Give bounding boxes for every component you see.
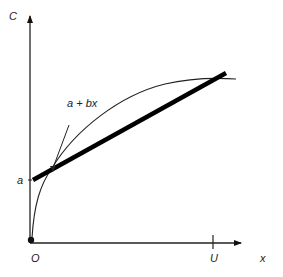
diagram-canvas: C x O U a a + bx	[0, 0, 283, 277]
u-label: U	[210, 252, 218, 264]
x-axis-label: x	[259, 252, 266, 264]
cost-curve	[32, 78, 236, 238]
a-label: a	[17, 174, 23, 186]
linear-approximation-line	[33, 73, 226, 180]
line-label: a + bx	[67, 97, 98, 109]
origin-label: O	[31, 252, 40, 264]
y-axis-label: C	[9, 10, 17, 22]
origin-dot	[28, 237, 34, 243]
